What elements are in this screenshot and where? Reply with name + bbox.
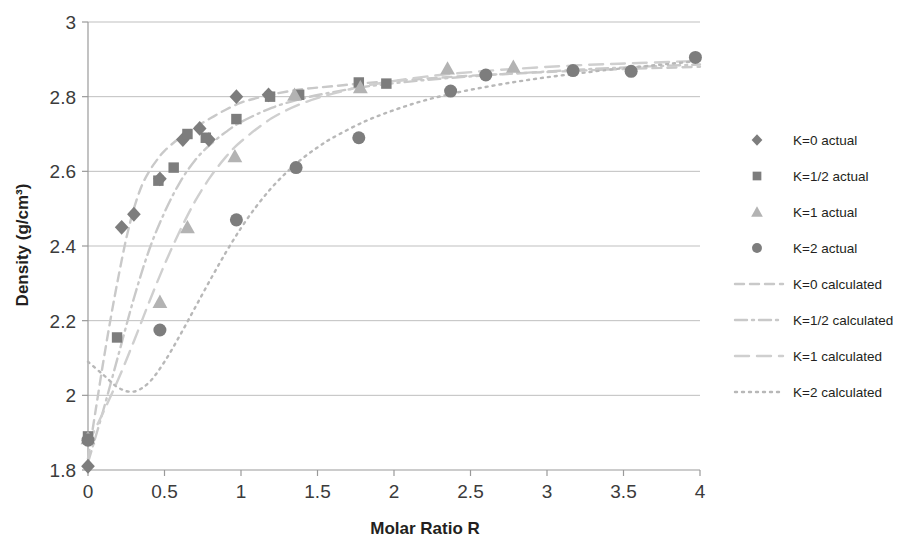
square-marker — [153, 175, 163, 185]
circle-marker — [444, 85, 457, 98]
legend-item[interactable]: K=1/2 actual — [753, 169, 869, 184]
y-tick-label: 2.2 — [50, 311, 76, 332]
triangle-marker — [180, 220, 195, 233]
circle-marker — [230, 213, 243, 226]
legend-item[interactable]: K=1 actual — [751, 205, 857, 220]
square-marker — [231, 114, 241, 124]
gridlines — [88, 22, 700, 395]
x-tick-label: 2.5 — [457, 481, 483, 502]
legend-item[interactable]: K=1/2 calculated — [735, 313, 893, 328]
circle-marker — [752, 243, 762, 253]
legend-item[interactable]: K=2 calculated — [735, 385, 882, 400]
triangle-marker — [153, 295, 168, 308]
square-marker — [112, 332, 122, 342]
x-tick-label: 4 — [695, 481, 706, 502]
calculated-curve — [88, 67, 700, 459]
triangle-marker — [506, 59, 521, 72]
x-tick-label: 3 — [542, 481, 553, 502]
legend-item[interactable]: K=0 calculated — [735, 277, 882, 292]
x-tick-label: 3.5 — [610, 481, 636, 502]
calculated-curves — [88, 61, 700, 463]
density-vs-molar-ratio-chart: 00.511.522.533.54 1.822.22.42.62.83 Mola… — [0, 0, 910, 542]
diamond-marker — [752, 134, 763, 146]
legend-item[interactable]: K=1 calculated — [735, 349, 882, 364]
legend-item[interactable]: K=2 actual — [752, 241, 857, 256]
square-marker — [168, 162, 178, 172]
y-axis-tick-labels: 1.822.22.42.62.83 — [50, 12, 77, 481]
y-axis-title: Density (g/cm³) — [13, 184, 32, 307]
triangle-marker — [227, 149, 242, 162]
square-marker — [381, 78, 391, 88]
x-tick-label: 1 — [236, 481, 247, 502]
circle-marker — [689, 51, 702, 64]
legend-item-label: K=1 calculated — [793, 349, 882, 364]
legend-item-label: K=1/2 calculated — [793, 313, 893, 328]
circle-marker — [567, 64, 580, 77]
square-marker — [753, 172, 762, 181]
chart-page: 00.511.522.533.54 1.822.22.42.62.83 Mola… — [0, 0, 910, 542]
calculated-curve — [88, 61, 700, 444]
x-axis-ticks — [88, 470, 700, 476]
circle-marker — [479, 69, 492, 82]
y-tick-label: 2.8 — [50, 87, 76, 108]
y-axis-ticks — [82, 22, 88, 470]
square-marker — [265, 91, 275, 101]
x-tick-label: 0 — [83, 481, 94, 502]
circle-marker — [352, 131, 365, 144]
y-tick-label: 2.4 — [50, 236, 77, 257]
legend-item-label: K=1 actual — [793, 205, 857, 220]
data-point-markers — [81, 51, 702, 474]
legend-item-label: K=0 calculated — [793, 277, 882, 292]
x-axis-tick-labels: 00.511.522.533.54 — [83, 481, 706, 502]
x-tick-label: 1.5 — [304, 481, 330, 502]
x-axis-title: Molar Ratio R — [370, 519, 480, 538]
legend-item-label: K=2 calculated — [793, 385, 882, 400]
legend-item-label: K=0 actual — [793, 133, 857, 148]
y-tick-label: 2 — [65, 385, 76, 406]
triangle-marker — [751, 206, 763, 217]
calculated-curve — [88, 61, 700, 392]
legend-item[interactable]: K=0 actual — [752, 133, 858, 148]
y-tick-label: 2.6 — [50, 161, 76, 182]
x-tick-label: 0.5 — [151, 481, 177, 502]
y-tick-label: 3 — [65, 12, 76, 33]
diamond-marker — [81, 459, 95, 474]
x-tick-label: 2 — [389, 481, 400, 502]
square-marker — [182, 129, 192, 139]
circle-marker — [153, 323, 166, 336]
diamond-marker — [127, 207, 141, 222]
triangle-marker — [440, 61, 455, 74]
chart-legend: K=0 actualK=1/2 actualK=1 actualK=2 actu… — [735, 133, 893, 400]
circle-marker — [625, 65, 638, 78]
circle-marker — [81, 434, 94, 447]
circle-marker — [290, 161, 303, 174]
square-marker — [201, 133, 211, 143]
y-tick-label: 1.8 — [50, 460, 76, 481]
legend-item-label: K=1/2 actual — [793, 169, 868, 184]
calculated-curve — [88, 65, 700, 463]
legend-item-label: K=2 actual — [793, 241, 857, 256]
